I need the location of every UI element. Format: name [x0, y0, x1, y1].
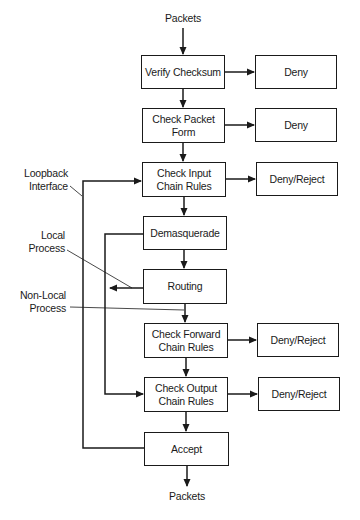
output-packets-label: Packets	[162, 490, 212, 503]
demasquerade-node: Demasquerade	[143, 216, 227, 250]
deny-reject-input-node: Deny/Reject	[256, 162, 338, 196]
check-forward-chain-node: Check Forward Chain Rules	[144, 323, 228, 358]
deny-reject-forward-node: Deny/Reject	[257, 323, 339, 357]
check-packet-form-node: Check Packet Form	[142, 108, 225, 143]
check-input-chain-node: Check Input Chain Rules	[142, 162, 226, 197]
deny-checksum-node: Deny	[255, 55, 337, 89]
accept-node: Accept	[144, 432, 229, 466]
deny-reject-output-node: Deny/Reject	[258, 377, 340, 411]
routing-node: Routing	[143, 269, 227, 304]
local-process-annotation: Local Process	[8, 229, 65, 255]
input-packets-label: Packets	[158, 12, 208, 25]
deny-form-node: Deny	[255, 108, 337, 142]
check-output-chain-node: Check Output Chain Rules	[144, 377, 228, 412]
loopback-interface-annotation: Loopback Interface	[8, 167, 68, 193]
non-local-process-annotation: Non-Local Process	[8, 289, 66, 315]
verify-checksum-node: Verify Checksum	[141, 55, 225, 89]
